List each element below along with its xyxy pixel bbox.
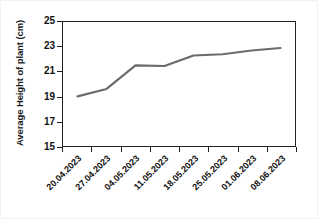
x-axis-tick-mark <box>296 147 297 152</box>
y-axis-tick-label: 19 <box>29 92 55 102</box>
plot-svg <box>63 22 295 146</box>
x-axis-tick-mark <box>267 147 268 152</box>
x-axis-tick-mark <box>91 147 92 152</box>
x-axis-tick-mark <box>238 147 239 152</box>
chart-figure: Average Height of plant (cm) 15171921232… <box>0 0 318 219</box>
x-axis-tick-mark <box>208 147 209 152</box>
x-axis-tick-mark <box>121 147 122 152</box>
y-axis-tick-label: 15 <box>29 142 55 152</box>
plot-area <box>62 21 296 147</box>
y-axis-title: Average Height of plant (cm) <box>10 8 30 158</box>
x-axis-tick-mark <box>179 147 180 152</box>
y-axis-tick-label: 25 <box>29 16 55 26</box>
y-axis-tick-label: 17 <box>29 117 55 127</box>
data-series-line <box>78 48 281 96</box>
y-axis-tick-label: 21 <box>29 66 55 76</box>
x-axis-tick-mark <box>150 147 151 152</box>
y-axis-tick-label: 23 <box>29 41 55 51</box>
x-axis-tick-mark <box>62 147 63 152</box>
